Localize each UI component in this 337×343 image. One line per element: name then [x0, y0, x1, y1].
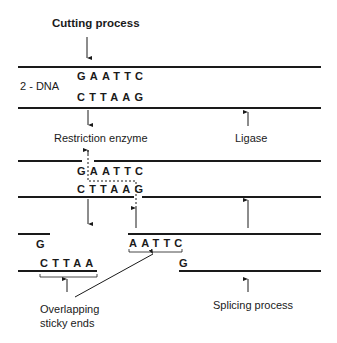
left-bottom-sticky-end: CTTAA: [40, 258, 97, 269]
diagram-lines: [0, 0, 337, 343]
dna-label: 2 - DNA: [20, 81, 59, 92]
splicing-process-label: Splicing process: [213, 300, 293, 311]
left-top-overhang: G: [36, 239, 49, 250]
stage1-bottom-sequence: CTTAAG: [77, 92, 147, 103]
stage2-bottom-sequence: CTTAAG: [77, 184, 147, 195]
ligase-label: Ligase: [235, 133, 267, 144]
stage1-top-sequence: GAATTC: [77, 71, 147, 82]
overlapping-label-line1: Overlapping: [40, 304, 99, 315]
overlapping-label-line2: sticky ends: [40, 318, 94, 329]
cutting-process-title: Cutting process: [52, 18, 140, 30]
stage2-top-sequence: GAATTC: [77, 166, 147, 177]
right-bottom-overhang: G: [179, 258, 192, 269]
cut-path: [88, 150, 136, 210]
restriction-enzyme-label: Restriction enzyme: [54, 133, 148, 144]
right-top-sticky-end: AATTC: [129, 238, 186, 249]
